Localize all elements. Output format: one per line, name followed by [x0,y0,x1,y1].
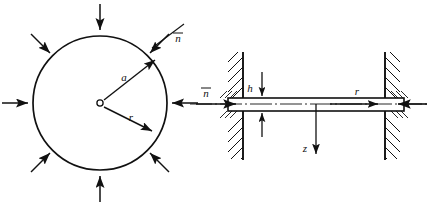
load-arrow-bottom-left [31,153,50,172]
center-point-marker [97,100,103,106]
radial-coordinate-label: r [129,111,134,123]
normal-vector-label: n [175,32,181,44]
plan-view-panel: a r n [2,4,198,202]
z-axis-label: z [302,142,308,154]
radius-dimension-arrow [104,60,155,100]
section-view-panel: n h z r [190,52,427,160]
diagram-canvas: a r n [0,0,427,211]
radius-label: a [121,71,127,83]
load-arrow-bottom-right [150,153,169,172]
section-normal-label-group: n [201,87,211,99]
load-arrow-top-left [31,34,50,53]
section-normal-label: n [203,87,209,99]
engineering-diagram: a r n [0,0,427,211]
thickness-label: h [247,82,253,94]
r-axis-label: r [355,85,360,97]
normal-vector-label-group: n [173,32,183,44]
